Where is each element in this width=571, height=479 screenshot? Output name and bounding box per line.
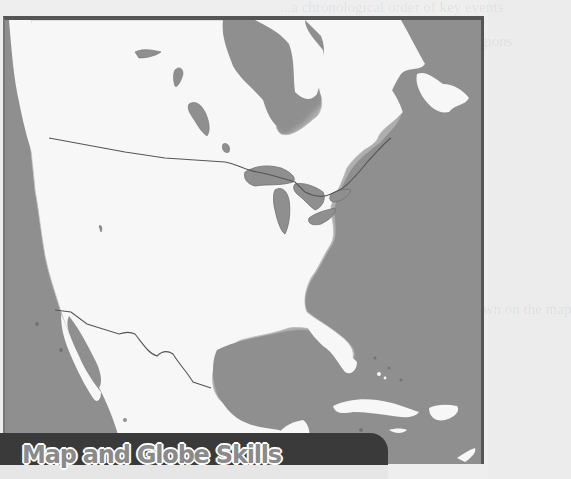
section-title: Map and Globe Skills [22,441,281,469]
bahamas [377,372,381,376]
map-graphic [5,20,484,464]
north-america-map [3,16,484,464]
